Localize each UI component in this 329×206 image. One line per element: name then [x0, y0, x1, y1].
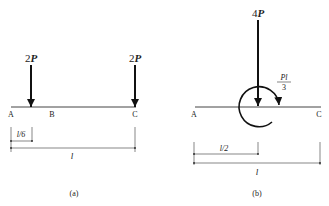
dimension-a	[11, 127, 135, 152]
point-a-C: C	[132, 110, 137, 119]
svg-text:Pl: Pl	[279, 73, 288, 82]
dim-b-short: l/2	[220, 144, 228, 153]
load-label-b: 4P	[252, 7, 265, 19]
point-a-B: B	[49, 110, 54, 119]
moment-label: Pl 3	[277, 73, 291, 92]
beam-diagrams: 2P 2P A B C l/6 l (a) 4P Pl 3 A C	[0, 0, 329, 206]
load-label-a2: 2P	[129, 52, 142, 64]
dim-a-short: l/6	[17, 130, 25, 139]
figure-b: 4P Pl 3 A C l/2 l (b)	[191, 7, 322, 198]
point-a-A: A	[8, 110, 14, 119]
caption-b: (b)	[252, 189, 262, 198]
dim-a-total: l	[71, 151, 74, 161]
point-b-C: C	[316, 110, 321, 119]
load-label-a1: 2P	[25, 52, 38, 64]
svg-text:3: 3	[282, 83, 286, 92]
dimension-b	[194, 142, 320, 165]
caption-a: (a)	[70, 189, 79, 198]
point-b-A: A	[191, 110, 197, 119]
figure-a: 2P 2P A B C l/6 l (a)	[8, 52, 141, 198]
dim-b-total: l	[256, 167, 259, 177]
